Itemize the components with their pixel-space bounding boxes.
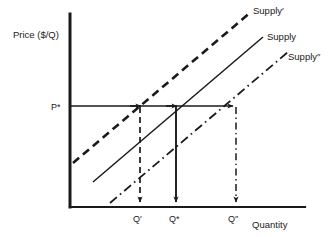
supply-curves-group bbox=[73, 12, 288, 203]
supply-curve bbox=[93, 37, 263, 182]
labels-group: Price ($/Q) Quantity P* Q′ Q* Q″ Supply′… bbox=[13, 5, 321, 230]
axes-group bbox=[70, 14, 305, 207]
curve-label-supply-prime: Supply′ bbox=[253, 5, 284, 16]
curve-label-supply-double-prime: Supply″ bbox=[288, 51, 321, 62]
x-tick-label-q-double-prime: Q″ bbox=[228, 214, 239, 224]
x-axis-label: Quantity bbox=[252, 219, 288, 230]
chart-canvas: Price ($/Q) Quantity P* Q′ Q* Q″ Supply′… bbox=[0, 0, 336, 237]
curve-label-supply: Supply bbox=[267, 31, 296, 42]
x-tick-label-q-star: Q* bbox=[169, 214, 180, 224]
supply-prime-curve bbox=[73, 12, 251, 163]
y-tick-label-pstar: P* bbox=[51, 102, 61, 112]
supply-double-prime-curve bbox=[110, 52, 288, 203]
x-tick-label-q-prime: Q′ bbox=[133, 214, 142, 224]
drop-lines-group bbox=[140, 107, 236, 202]
y-axis-label: Price ($/Q) bbox=[13, 29, 59, 40]
supply-shift-diagram: Price ($/Q) Quantity P* Q′ Q* Q″ Supply′… bbox=[0, 0, 336, 237]
